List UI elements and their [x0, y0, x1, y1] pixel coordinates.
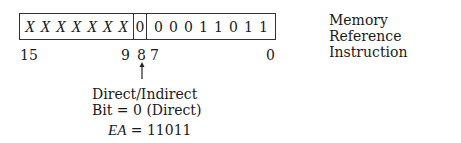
address-field: 0 0 0 1 1 0 1 1 — [147, 14, 275, 39]
instruction-register: X X X X X X X 0 0 0 0 1 1 0 1 1 — [19, 13, 276, 40]
effective-address: EA = 11011 — [108, 122, 192, 138]
opcode-bit: X — [118, 18, 128, 36]
address-bit: 0 — [154, 19, 163, 35]
diagram-title: Memory Reference Instruction — [329, 12, 461, 60]
address-bit: 1 — [259, 19, 268, 35]
direct-indirect-label: Direct/Indirect Bit = 0 (Direct) — [92, 86, 201, 118]
annotation-line-2: Bit = 0 (Direct) — [92, 102, 201, 118]
address-bit: 1 — [199, 19, 208, 35]
title-line-1: Memory Reference — [329, 12, 461, 44]
opcode-bit: X — [25, 18, 35, 36]
address-bit: 0 — [184, 19, 193, 35]
up-arrow-icon — [137, 62, 147, 80]
di-bit-value: 0 — [136, 19, 145, 35]
bit-position-8: 8 — [137, 47, 146, 63]
bit-position-0: 0 — [266, 47, 275, 63]
opcode-field: X X X X X X X — [20, 14, 134, 39]
opcode-bit: X — [40, 18, 50, 36]
address-bit: 0 — [169, 19, 178, 35]
opcode-bit: X — [72, 18, 82, 36]
bit-position-15: 15 — [20, 47, 38, 63]
address-bit: 1 — [244, 19, 253, 35]
address-bit: 1 — [214, 19, 223, 35]
address-bit: 0 — [229, 19, 238, 35]
bit-position-9: 9 — [121, 47, 130, 63]
ea-label: EA — [108, 122, 126, 138]
bit-position-7: 7 — [150, 47, 159, 63]
annotation-line-1: Direct/Indirect — [92, 86, 201, 102]
direct-indirect-bit: 0 — [134, 14, 147, 39]
opcode-bit: X — [87, 18, 97, 36]
opcode-bit: X — [103, 18, 113, 36]
opcode-bit: X — [56, 18, 66, 36]
title-line-2: Instruction — [329, 44, 461, 60]
ea-value: = 11011 — [131, 122, 192, 138]
